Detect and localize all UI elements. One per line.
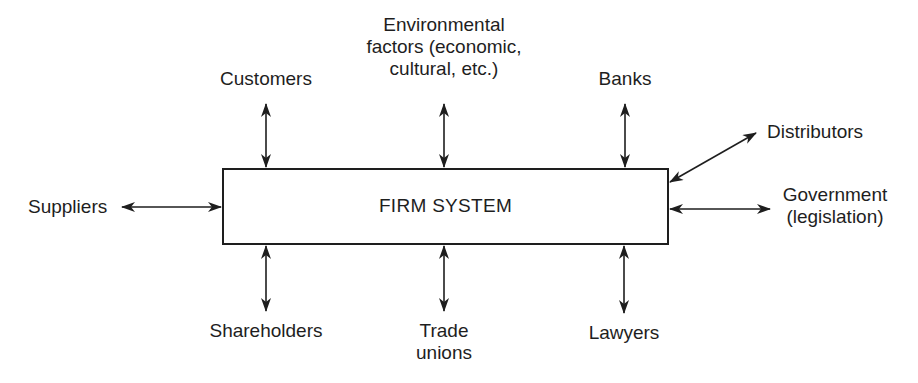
customers-label: Customers (216, 68, 316, 90)
environmental-line-3: cultural, etc.) (364, 58, 524, 80)
trade-unions-line-2: unions (404, 342, 484, 364)
firm-system-diagram: FIRM SYSTEM Customers Environmental fact… (0, 0, 918, 383)
environmental-line-2: factors (economic, (364, 36, 524, 58)
trade-unions-line-1: Trade (404, 320, 484, 342)
firm-system-label: FIRM SYSTEM (224, 195, 667, 217)
lawyers-label: Lawyers (584, 322, 664, 344)
environmental-factors-label: Environmental factors (economic, cultura… (364, 14, 524, 80)
firm-system-box: FIRM SYSTEM (222, 168, 669, 245)
shareholders-label: Shareholders (201, 320, 331, 342)
distributors-label: Distributors (767, 121, 863, 143)
banks-label: Banks (585, 68, 665, 90)
distributors-arrow (670, 133, 756, 182)
government-line-1: Government (775, 184, 895, 206)
suppliers-label: Suppliers (28, 196, 107, 218)
trade-unions-label: Trade unions (404, 320, 484, 364)
government-label: Government (legislation) (775, 184, 895, 228)
government-line-2: (legislation) (775, 206, 895, 228)
environmental-line-1: Environmental (364, 14, 524, 36)
